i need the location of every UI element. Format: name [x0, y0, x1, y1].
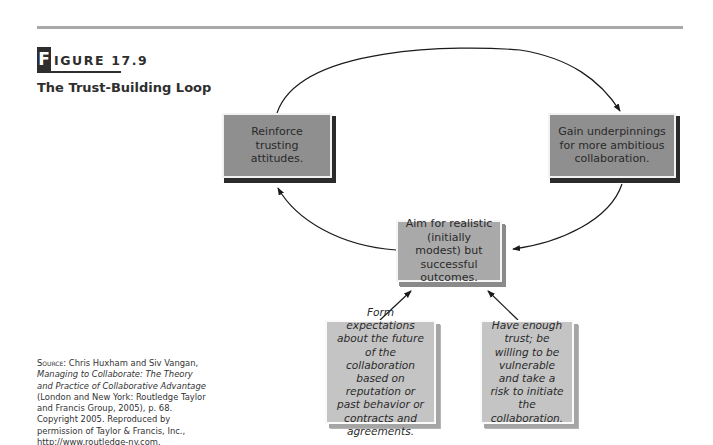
node-aim-text: Aim for realistic (initially modest) but…: [404, 217, 494, 285]
node-form-text: Form expectations about the future of th…: [333, 306, 428, 438]
node-have-text: Have enough trust; be willing to be vuln…: [488, 319, 566, 425]
arrow-have-to-aim: [488, 291, 518, 320]
node-form: Form expectations about the future of th…: [325, 320, 436, 424]
source-details: (London and New York: Routledge Taylor a…: [37, 392, 206, 445]
top-rule: [37, 26, 683, 29]
node-reinforce-text: Reinforce trusting attitudes.: [242, 125, 312, 166]
source-prefix: Source:: [37, 358, 66, 368]
node-have: Have enough trust; be willing to be vuln…: [480, 320, 574, 424]
node-gain-text: Gain underpinnings for more ambitious co…: [556, 125, 668, 166]
figure-letter: F: [37, 47, 51, 71]
arrow-reinforce-to-gain: [277, 48, 620, 113]
source-authors: Chris Huxham and Siv Vangan,: [69, 358, 198, 368]
source-book-title: Managing to Collaborate: The Theory and …: [37, 369, 206, 390]
figure-title: The Trust-Building Loop: [37, 80, 211, 95]
node-gain: Gain underpinnings for more ambitious co…: [548, 113, 676, 178]
figure-underline: [37, 71, 121, 73]
figure-number: IGURE 17.9: [54, 53, 148, 68]
node-reinforce: Reinforce trusting attitudes.: [222, 113, 332, 178]
arrow-aim-to-reinforce: [278, 188, 396, 250]
arrow-gain-to-aim: [513, 184, 622, 249]
source-note: Source: Chris Huxham and Siv Vangan, Man…: [37, 358, 207, 445]
node-aim: Aim for realistic (initially modest) but…: [396, 220, 502, 282]
